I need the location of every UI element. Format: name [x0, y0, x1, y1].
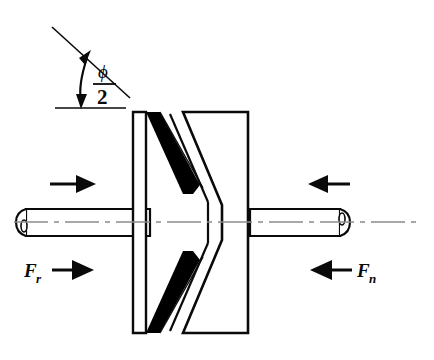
force-right-symbol: F — [356, 260, 370, 281]
angle-numerator-phi: ϕ — [98, 61, 108, 82]
force-left-symbol: F — [23, 260, 37, 281]
angle-arrowhead-lower-icon — [76, 94, 87, 109]
force-left-arrow-head-icon — [72, 260, 94, 280]
arrow-upper-right-head-icon — [308, 175, 328, 193]
figure-root: ϕ 2 — [0, 0, 434, 360]
shaft-right-chamfer-ellipse — [339, 213, 345, 225]
angle-inclined-line — [52, 27, 130, 98]
force-right-arrow-head-icon — [310, 260, 332, 280]
force-left-subscript: r — [36, 271, 42, 286]
angle-denominator-two: 2 — [97, 85, 108, 109]
arrow-upper-left-head-icon — [76, 175, 96, 193]
force-right-subscript: n — [369, 271, 376, 286]
pulley-diagram: ϕ 2 — [0, 0, 434, 360]
